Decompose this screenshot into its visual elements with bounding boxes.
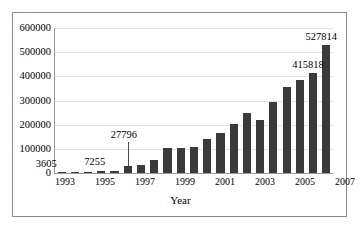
bar-series bbox=[55, 28, 333, 173]
bar bbox=[163, 148, 171, 173]
bar-slot bbox=[201, 28, 214, 173]
bar bbox=[256, 120, 264, 173]
bar-slot bbox=[134, 28, 147, 173]
bar-slot bbox=[187, 28, 200, 173]
y-axis-tick-label: 300000 bbox=[20, 95, 52, 106]
bar-slot bbox=[174, 28, 187, 173]
y-axis-tick-label: 500000 bbox=[20, 47, 52, 58]
y-axis-tick-label: 100000 bbox=[20, 144, 52, 155]
bar-slot bbox=[320, 28, 333, 173]
x-axis-tick-label: 2001 bbox=[215, 175, 235, 191]
data-label: 7255 bbox=[84, 157, 105, 168]
bar bbox=[97, 171, 105, 173]
x-axis-title: Year bbox=[13, 194, 348, 206]
bar bbox=[110, 171, 118, 173]
bar bbox=[190, 147, 198, 173]
bar bbox=[71, 172, 79, 173]
bar bbox=[150, 160, 158, 173]
bar-slot bbox=[95, 28, 108, 173]
plot-area: 3605725527796415818527814 bbox=[55, 28, 333, 173]
bar bbox=[283, 87, 291, 173]
y-axis-tick-label: 600000 bbox=[20, 23, 52, 34]
y-axis-tick-label: 400000 bbox=[20, 71, 52, 82]
bar bbox=[309, 73, 317, 173]
bar-slot bbox=[148, 28, 161, 173]
y-axis-tick-label: 200000 bbox=[20, 119, 52, 130]
bar-slot bbox=[240, 28, 253, 173]
x-axis-tick-label: 1995 bbox=[95, 175, 115, 191]
x-axis-tick-label: 1999 bbox=[175, 175, 195, 191]
chart-frame: 6000005000004000003000002000001000000 36… bbox=[12, 12, 347, 217]
bar-slot bbox=[214, 28, 227, 173]
bar-slot bbox=[267, 28, 280, 173]
bar bbox=[243, 113, 251, 173]
bar-slot bbox=[55, 28, 68, 173]
y-axis-tick-labels: 6000005000004000003000002000001000000 bbox=[13, 28, 51, 173]
bar bbox=[137, 165, 145, 173]
bar bbox=[230, 124, 238, 173]
data-label: 27796 bbox=[111, 130, 137, 141]
bar-slot bbox=[108, 28, 121, 173]
bar bbox=[58, 172, 66, 173]
bar bbox=[216, 133, 224, 173]
bar-slot bbox=[293, 28, 306, 173]
bar bbox=[177, 148, 185, 173]
x-axis-tick-label: 2003 bbox=[255, 175, 275, 191]
data-label: 415818 bbox=[292, 60, 324, 71]
x-axis-tick-label: 1997 bbox=[135, 175, 155, 191]
data-label: 527814 bbox=[305, 32, 337, 43]
bar-slot bbox=[254, 28, 267, 173]
bar-slot bbox=[280, 28, 293, 173]
bar-slot bbox=[81, 28, 94, 173]
bar bbox=[296, 80, 304, 173]
bar bbox=[269, 102, 277, 173]
gridline bbox=[55, 173, 333, 174]
x-axis-tick-labels: 1993199419951996199719981999200020012002… bbox=[55, 175, 333, 191]
x-axis-tick-label: 1993 bbox=[55, 175, 75, 191]
bar-slot bbox=[227, 28, 240, 173]
bar-slot bbox=[306, 28, 319, 173]
bar bbox=[84, 172, 92, 173]
bar-slot bbox=[161, 28, 174, 173]
bar bbox=[124, 166, 132, 173]
bar bbox=[203, 139, 211, 173]
data-label: 3605 bbox=[36, 159, 57, 170]
bar-slot bbox=[68, 28, 81, 173]
x-axis-tick-label: 2005 bbox=[295, 175, 315, 191]
x-axis-tick-label: 2007 bbox=[335, 175, 355, 191]
data-label-leader-line bbox=[128, 142, 129, 166]
